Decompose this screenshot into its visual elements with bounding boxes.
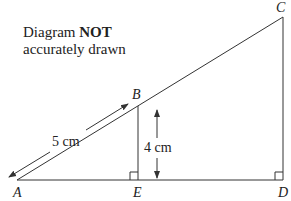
dimension-arrow-AB-upper <box>86 104 128 130</box>
point-D: D <box>277 185 288 200</box>
point-A: A <box>12 185 22 200</box>
point-B: B <box>132 87 141 102</box>
right-angle-E <box>130 172 138 180</box>
line-AC <box>17 17 283 180</box>
label-BE: 4 cm <box>144 140 172 155</box>
point-C: C <box>276 0 286 15</box>
right-angle-D <box>275 172 283 180</box>
point-E: E <box>132 185 142 200</box>
label-AB: 5 cm <box>52 134 80 149</box>
dimension-arrow-AB-lower <box>9 152 50 177</box>
triangle-diagram: 5 cm 4 cm A B C D E <box>0 0 291 201</box>
